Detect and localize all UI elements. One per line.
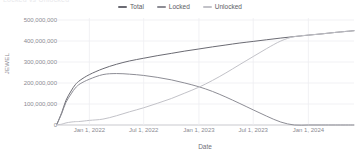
x-axis-title: Date [55,143,355,151]
series-line-locked [57,74,354,126]
grid-lines [57,18,354,125]
x-axis-tick-label: Jan 1, 2024 [273,127,343,134]
series-line-total [57,31,354,124]
chart-container: Locked vs Unlocked Total Locked Unlocked… [0,0,360,155]
series-line-unlocked [57,31,354,125]
series-lines [57,31,354,126]
